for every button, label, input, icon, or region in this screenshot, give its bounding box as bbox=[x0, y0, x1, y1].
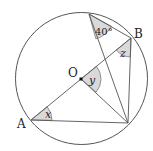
angle-label-y: y bbox=[88, 74, 96, 87]
label-o: O bbox=[68, 66, 78, 80]
angle-label-40: 40° bbox=[95, 26, 113, 37]
angle-label-z: z bbox=[119, 47, 126, 60]
center-point-o bbox=[80, 78, 83, 81]
diagram-canvas: O A B 40° z y x bbox=[0, 0, 153, 151]
label-a: A bbox=[16, 117, 26, 131]
circle-diagram: O A B 40° z y x bbox=[0, 0, 153, 151]
angle-label-x: x bbox=[45, 108, 52, 121]
label-b: B bbox=[134, 27, 143, 41]
